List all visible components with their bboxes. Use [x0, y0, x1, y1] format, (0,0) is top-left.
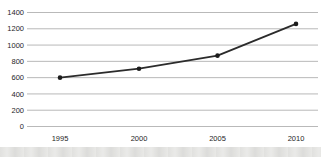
- data-point-marker: [137, 66, 142, 71]
- x-axis-tick-label: 2010: [288, 134, 305, 143]
- y-axis-tick-label: 800: [11, 57, 24, 66]
- data-point-marker: [215, 53, 220, 58]
- data-point-marker: [58, 75, 63, 80]
- y-axis-tick-label: 0: [20, 122, 24, 131]
- y-axis-tick-label: 600: [11, 73, 24, 82]
- y-axis-tick-label: 1200: [7, 24, 24, 33]
- series-line: [60, 24, 296, 78]
- chart-plot-area: 0200400600800100012001400199520002005201…: [0, 0, 321, 157]
- line-chart: 0200400600800100012001400199520002005201…: [0, 0, 321, 157]
- y-axis-tick-label: 1400: [7, 8, 24, 17]
- y-axis-tick-label: 1000: [7, 41, 24, 50]
- background-texture-band: [0, 147, 321, 157]
- y-axis-tick-label: 200: [11, 106, 24, 115]
- y-axis-tick-label: 400: [11, 90, 24, 99]
- x-axis-tick-label: 2005: [209, 134, 226, 143]
- x-axis-tick-label: 2000: [131, 134, 148, 143]
- data-point-marker: [294, 22, 299, 27]
- x-axis-tick-label: 1995: [52, 134, 69, 143]
